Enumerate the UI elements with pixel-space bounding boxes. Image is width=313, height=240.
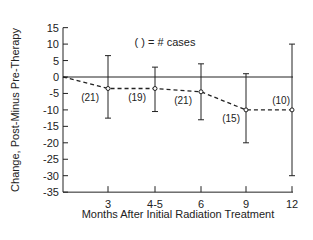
x-axis-label: Months After Initial Radiation Treatment: [82, 208, 275, 220]
y-tick-label: 10: [47, 38, 59, 50]
data-point: [290, 108, 294, 112]
y-tick-label: 0: [53, 71, 59, 83]
axes: [63, 28, 293, 193]
y-tick-label: 15: [47, 22, 59, 34]
data-point: [244, 108, 248, 112]
case-count-label: (10): [272, 95, 290, 106]
data-point: [199, 90, 203, 94]
chart: 151050-5-10-15-20-25-30-35 34-56912 (21)…: [0, 0, 313, 240]
y-axis-ticks: 151050-5-10-15-20-25-30-35: [43, 22, 68, 199]
y-tick-label: -15: [43, 120, 59, 132]
case-count-label: (21): [81, 92, 99, 103]
case-count-label: (15): [222, 113, 240, 124]
x-axis-ticks: 34-56912: [105, 186, 298, 210]
y-tick-label: -35: [43, 186, 59, 198]
data-series: (21)(19)(21)(15)(10): [63, 44, 295, 176]
x-tick-label: 12: [286, 198, 298, 210]
data-point: [153, 87, 157, 91]
y-tick-label: -10: [43, 104, 59, 116]
case-count-label: (19): [128, 92, 146, 103]
legend-note: ( ) = # cases: [135, 36, 196, 48]
data-point: [106, 87, 110, 91]
y-axis-label: Change, Post-Minus Pre-Therapy: [9, 28, 21, 192]
y-tick-label: -20: [43, 137, 59, 149]
y-tick-label: 5: [53, 55, 59, 67]
y-tick-label: -30: [43, 170, 59, 182]
y-tick-label: -5: [49, 87, 59, 99]
y-tick-label: -25: [43, 153, 59, 165]
case-count-label: (21): [174, 95, 192, 106]
